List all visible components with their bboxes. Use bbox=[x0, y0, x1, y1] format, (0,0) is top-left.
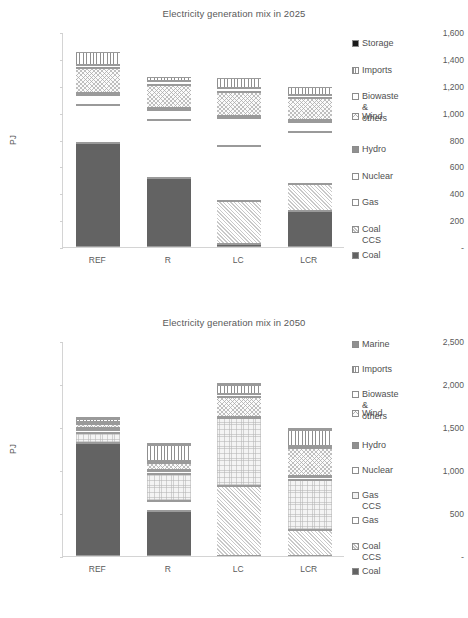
legend-swatch-gas-icon bbox=[352, 517, 359, 524]
legend-swatch-hydro-icon bbox=[352, 146, 359, 153]
y-tick-label: 1,500 bbox=[408, 423, 464, 433]
legend-swatch-biowaste-icon bbox=[352, 391, 359, 398]
y-tick-label: 600 bbox=[408, 162, 464, 172]
legend-swatch-nuclear-icon bbox=[352, 467, 359, 474]
segment-gas-ccs bbox=[288, 480, 332, 530]
segment-wind bbox=[147, 463, 191, 470]
plot-area bbox=[62, 33, 344, 248]
segment-coal-ccs bbox=[288, 184, 332, 211]
legend-swatch-nuclear-icon bbox=[352, 173, 359, 180]
segment-gas bbox=[288, 132, 332, 184]
legend-label: Imports bbox=[362, 65, 392, 76]
bars-layer bbox=[63, 33, 344, 247]
legend-item-nuclear[interactable]: Nuclear bbox=[352, 465, 393, 476]
bar-lcr bbox=[288, 341, 332, 556]
segment-gas bbox=[147, 501, 191, 512]
legend-swatch-coal-ccs-icon bbox=[352, 226, 359, 233]
segment-marine bbox=[217, 383, 261, 385]
segment-imports bbox=[147, 77, 191, 82]
segment-biowaste-others bbox=[76, 422, 120, 424]
legend-item-gas[interactable]: Gas bbox=[352, 515, 379, 526]
legend-swatch-biowaste-icon bbox=[352, 93, 359, 100]
legend-item-gas[interactable]: Gas bbox=[352, 197, 379, 208]
segment-hydro bbox=[76, 428, 120, 430]
legend-item-hydro[interactable]: Hydro bbox=[352, 144, 386, 155]
legend-swatch-wind-icon bbox=[352, 113, 359, 120]
segment-hydro bbox=[288, 475, 332, 477]
legend-swatch-imports-icon bbox=[352, 67, 359, 74]
segment-coal-ccs bbox=[217, 486, 261, 556]
legend-item-coal-ccs[interactable]: Coal CCS bbox=[352, 541, 381, 563]
segment-gas-ccs bbox=[217, 418, 261, 486]
legend-item-hydro[interactable]: Hydro bbox=[352, 440, 386, 451]
legend-swatch-imports-icon bbox=[352, 366, 359, 373]
bar-ref bbox=[76, 32, 120, 247]
y-tick-label: 1,600 bbox=[408, 28, 464, 38]
x-tick-label-r: R bbox=[165, 564, 171, 574]
legend-item-nuclear[interactable]: Nuclear bbox=[352, 171, 393, 182]
segment-biowaste-others bbox=[147, 461, 191, 463]
segment-wind bbox=[288, 98, 332, 120]
segment-imports bbox=[217, 385, 261, 394]
x-tick-label-lcr: LCR bbox=[300, 255, 317, 265]
legend-label: Marine bbox=[362, 339, 390, 350]
y-tick-mark bbox=[60, 248, 63, 249]
segment-biowaste-others bbox=[76, 65, 120, 68]
segment-gas bbox=[217, 146, 261, 202]
legend-item-imports[interactable]: Imports bbox=[352, 364, 392, 375]
legend-swatch-storage-icon bbox=[352, 40, 359, 47]
x-tick-label-ref: REF bbox=[89, 564, 106, 574]
legend-swatch-marine-icon bbox=[352, 341, 359, 348]
legend-swatch-hydro-icon bbox=[352, 442, 359, 449]
segment-imports bbox=[288, 87, 332, 94]
segment-wind bbox=[147, 85, 191, 109]
legend-label: Coal bbox=[362, 250, 381, 261]
y-tick-label: 400 bbox=[408, 189, 464, 199]
bar-lc bbox=[217, 341, 261, 556]
legend-label: Coal bbox=[362, 566, 381, 577]
x-tick-label-lc: LC bbox=[233, 255, 244, 265]
segment-nuclear bbox=[288, 122, 332, 132]
legend-item-coal-ccs[interactable]: Coal CCS bbox=[352, 224, 381, 246]
legend-label: Coal CCS bbox=[362, 541, 381, 563]
segment-gas bbox=[76, 105, 120, 143]
bar-ref bbox=[76, 341, 120, 556]
segment-gas-ccs bbox=[147, 474, 191, 500]
legend-label: Gas bbox=[362, 197, 379, 208]
chart-title: Electricity generation mix in 2050 bbox=[0, 317, 468, 328]
legend-item-imports[interactable]: Imports bbox=[352, 65, 392, 76]
legend-label: Imports bbox=[362, 364, 392, 375]
x-tick-label-r: R bbox=[165, 255, 171, 265]
legend-item-marine[interactable]: Marine bbox=[352, 339, 390, 350]
legend-label: Coal CCS bbox=[362, 224, 381, 246]
segment-coal bbox=[76, 443, 120, 556]
legend-item-gas-ccs[interactable]: Gas CCS bbox=[352, 490, 381, 512]
legend-label: Gas bbox=[362, 515, 379, 526]
segment-imports bbox=[217, 78, 261, 89]
segment-hydro bbox=[217, 416, 261, 418]
legend-label: Nuclear bbox=[362, 171, 393, 182]
segment-marine bbox=[76, 417, 120, 419]
y-tick-label: 2,500 bbox=[408, 337, 464, 347]
legend-label: Gas CCS bbox=[362, 490, 381, 512]
legend-swatch-coal-icon bbox=[352, 568, 359, 575]
legend-item-coal[interactable]: Coal bbox=[352, 566, 381, 577]
legend-item-storage[interactable]: Storage bbox=[352, 38, 394, 49]
segment-imports bbox=[76, 419, 120, 422]
segment-wind bbox=[76, 68, 120, 93]
legend-item-coal[interactable]: Coal bbox=[352, 250, 381, 261]
bar-r bbox=[147, 32, 191, 247]
bar-r bbox=[147, 341, 191, 556]
x-tick-label-lc: LC bbox=[233, 564, 244, 574]
bars-layer bbox=[63, 342, 344, 556]
legend-item-wind[interactable]: Wind bbox=[352, 408, 383, 419]
legend-item-wind[interactable]: Wind bbox=[352, 111, 383, 122]
y-tick-label: 200 bbox=[408, 216, 464, 226]
segment-imports bbox=[147, 445, 191, 460]
y-tick-label: 1,000 bbox=[408, 109, 464, 119]
segment-coal-ccs bbox=[217, 201, 261, 243]
segment-hydro bbox=[288, 120, 332, 122]
segment-marine bbox=[147, 443, 191, 445]
segment-gas-ccs bbox=[76, 433, 120, 444]
segment-coal-ccs bbox=[288, 530, 332, 556]
